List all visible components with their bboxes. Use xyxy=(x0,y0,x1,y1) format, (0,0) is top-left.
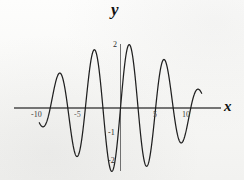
x-tick-label-5: 5 xyxy=(153,110,157,119)
y-tick-label-neg1: -1 xyxy=(108,128,115,137)
x-tick-label-neg5: -5 xyxy=(74,110,81,119)
y-axis-title: y xyxy=(111,0,119,20)
x-axis-title: x xyxy=(224,98,232,115)
y-tick-label-2: 2 xyxy=(113,40,117,49)
x-tick-label-10: 10 xyxy=(182,110,190,119)
y-tick-label-neg2: -2 xyxy=(108,156,115,165)
figure-canvas: y x -10 -5 5 10 2 -1 -2 xyxy=(0,0,244,180)
plot-area xyxy=(0,0,244,180)
axis-lines xyxy=(14,44,221,171)
x-tick-label-neg10: -10 xyxy=(31,110,42,119)
